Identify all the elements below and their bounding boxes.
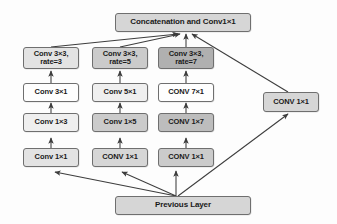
node-shortcut-label: CONV 1×1 (273, 98, 309, 106)
node-label-line2: rate=7 (175, 58, 197, 66)
node-label-line2: rate=5 (109, 58, 131, 66)
node-concatenation-label: Concatenation and Conv1×1 (130, 18, 235, 27)
node-concatenation[interactable]: Concatenation and Conv1×1 (115, 13, 251, 32)
node-branch3-conv1x1[interactable]: CONV 1×1 (158, 148, 214, 167)
node-label-line2: rate=3 (40, 58, 62, 66)
node-label: Conv 1×5 (104, 118, 137, 126)
node-branch1-conv1x3[interactable]: Conv 1×3 (23, 113, 79, 132)
node-label: CONV 7×1 (168, 88, 204, 96)
node-branch3-conv1x7[interactable]: CONV 1×7 (158, 113, 214, 132)
node-label: Conv 1×3 (35, 118, 68, 126)
node-branch3-conv7x1[interactable]: CONV 7×1 (158, 83, 214, 102)
node-previous-layer[interactable]: Previous Layer (115, 196, 251, 215)
node-branch2-conv5x1[interactable]: Conv 5×1 (92, 83, 148, 102)
node-branch2-conv3x3-rate5[interactable]: Conv 3×3, rate=5 (92, 47, 148, 69)
node-branch3-conv3x3-rate7[interactable]: Conv 3×3, rate=7 (158, 47, 214, 69)
node-label: Conv 1×1 (35, 153, 68, 161)
node-branch1-conv1x1[interactable]: Conv 1×1 (23, 148, 79, 167)
node-label: Conv 5×1 (104, 88, 137, 96)
node-branch2-conv1x1[interactable]: CONV 1×1 (92, 148, 148, 167)
node-label: CONV 1×1 (168, 153, 204, 161)
node-branch1-conv3x1[interactable]: Conv 3×1 (23, 83, 79, 102)
node-label: CONV 1×1 (102, 153, 138, 161)
connection-edges (0, 0, 337, 224)
node-branch1-conv3x3-rate3[interactable]: Conv 3×3, rate=3 (23, 47, 79, 69)
node-shortcut-conv1x1[interactable]: CONV 1×1 (263, 92, 319, 112)
node-label: CONV 1×7 (168, 118, 204, 126)
network-architecture-diagram: Concatenation and Conv1×1 Conv 3×3, rate… (0, 0, 337, 224)
node-branch2-conv1x5[interactable]: Conv 1×5 (92, 113, 148, 132)
node-previous-layer-label: Previous Layer (155, 201, 211, 210)
node-label: Conv 3×1 (35, 88, 68, 96)
